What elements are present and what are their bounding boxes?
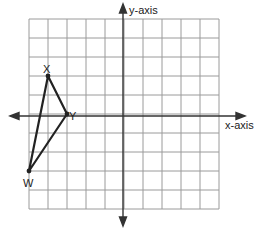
vertex-label-y: Y <box>69 111 76 122</box>
coordinate-plane <box>0 0 264 234</box>
axes <box>10 4 245 226</box>
grid-lines <box>29 19 219 209</box>
x-axis-left-arrow-icon <box>10 113 19 120</box>
y-axis-up-arrow-icon <box>120 4 127 13</box>
vertex-label-w: W <box>23 178 33 189</box>
vertex-point-w <box>27 169 32 174</box>
x-axis-label: x-axis <box>225 120 254 131</box>
y-axis-label: y-axis <box>129 5 158 16</box>
y-axis-down-arrow-icon <box>120 217 127 226</box>
vertex-label-x: X <box>43 64 50 75</box>
